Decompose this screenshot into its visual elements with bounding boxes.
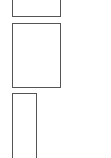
thumbnail-panel [0,0,111,158]
page-thumbnail-2[interactable] [12,23,61,88]
page-thumbnail-1[interactable] [12,0,61,17]
page-thumbnail-3[interactable] [12,93,37,158]
